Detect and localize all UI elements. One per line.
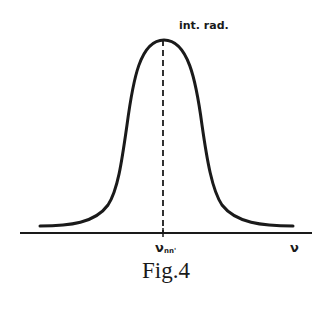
peak-position-subscript: nn': [164, 247, 176, 255]
peak-label: int. rad.: [179, 19, 229, 32]
line-profile-curve: [40, 40, 293, 226]
axis-label: ν: [290, 240, 299, 255]
figure-caption: Fig.4: [0, 258, 332, 284]
peak-position-label: ν: [155, 240, 164, 255]
